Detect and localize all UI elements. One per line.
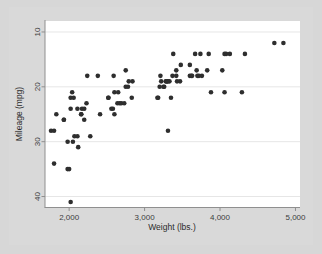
data-point xyxy=(52,128,57,133)
data-point xyxy=(198,52,203,57)
data-point xyxy=(205,68,210,73)
data-point xyxy=(106,95,111,100)
plot-canvas: 2,0003,0004,0005,000 10203040 Weight (lb… xyxy=(0,0,322,254)
y-axis-title: Mileage (mpg) xyxy=(14,87,24,141)
data-point xyxy=(194,68,199,73)
data-point xyxy=(190,74,195,79)
data-point xyxy=(159,79,164,84)
data-point xyxy=(167,79,172,84)
data-point xyxy=(228,52,233,57)
data-point xyxy=(52,161,57,166)
data-point xyxy=(68,200,73,205)
x-tick-label: 3,000 xyxy=(135,213,156,222)
x-tick-label: 5,000 xyxy=(285,213,306,222)
data-point xyxy=(281,41,286,46)
data-point xyxy=(272,41,277,46)
data-point xyxy=(82,117,87,122)
y-axis-tick-labels: 10203040 xyxy=(33,27,42,201)
x-axis-ticks xyxy=(69,208,295,212)
data-point xyxy=(156,95,161,100)
data-point xyxy=(98,112,103,117)
data-point xyxy=(111,106,116,111)
y-tick-label: 20 xyxy=(33,82,42,91)
data-point xyxy=(206,52,211,57)
data-point xyxy=(112,112,117,117)
data-point xyxy=(193,52,198,57)
data-point xyxy=(71,95,76,100)
data-point xyxy=(79,112,84,117)
data-point xyxy=(71,139,76,144)
data-point xyxy=(222,90,227,95)
data-point xyxy=(75,106,80,111)
y-tick-label: 30 xyxy=(33,137,42,146)
data-point xyxy=(129,95,134,100)
data-point xyxy=(75,134,80,139)
data-point xyxy=(188,63,193,68)
data-point xyxy=(85,74,90,79)
data-point xyxy=(200,74,205,79)
x-axis-tick-labels: 2,0003,0004,0005,000 xyxy=(59,213,306,222)
data-point xyxy=(76,145,81,150)
data-point xyxy=(84,101,89,106)
scatter-plot-figure: 2,0003,0004,0005,000 10203040 Weight (lb… xyxy=(0,0,322,254)
x-tick-label: 2,000 xyxy=(59,213,80,222)
data-point xyxy=(82,106,87,111)
data-point xyxy=(70,90,75,95)
data-point xyxy=(68,106,73,111)
data-point xyxy=(122,101,127,106)
data-point xyxy=(62,117,67,122)
data-point xyxy=(116,90,121,95)
data-point xyxy=(178,79,183,84)
data-point xyxy=(220,68,225,73)
data-point xyxy=(123,68,128,73)
data-point xyxy=(240,90,245,95)
data-point xyxy=(162,85,167,90)
data-point xyxy=(166,128,171,133)
data-point xyxy=(126,85,131,90)
data-point xyxy=(65,139,70,144)
y-tick-label: 10 xyxy=(33,27,42,36)
data-point xyxy=(54,112,59,117)
data-point xyxy=(130,79,135,84)
data-point xyxy=(169,95,174,100)
data-point xyxy=(88,134,93,139)
x-tick-label: 4,000 xyxy=(210,213,231,222)
y-axis-ticks xyxy=(42,32,46,197)
data-point xyxy=(96,74,101,79)
data-point xyxy=(111,74,116,79)
data-point xyxy=(174,68,179,73)
y-tick-label: 40 xyxy=(33,192,42,201)
data-point xyxy=(179,63,184,68)
x-axis-title: Weight (lbs.) xyxy=(148,222,196,232)
data-point xyxy=(174,74,179,79)
data-point xyxy=(171,52,176,57)
data-point xyxy=(158,74,163,79)
data-point xyxy=(243,52,248,57)
data-point xyxy=(209,90,214,95)
data-point xyxy=(67,167,72,172)
